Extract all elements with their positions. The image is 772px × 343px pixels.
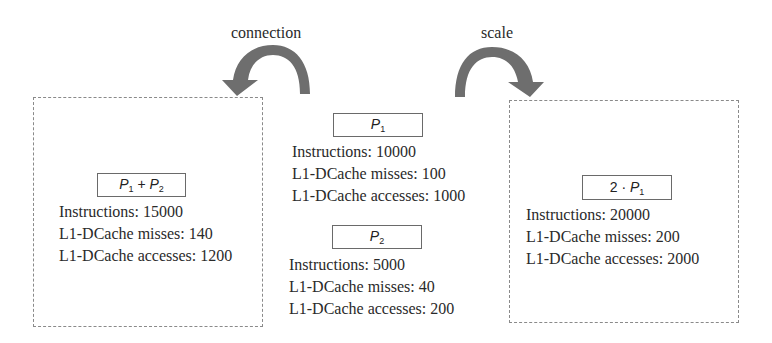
combined-program-title: P1 + P2 <box>97 173 186 197</box>
title-sub: 1 <box>380 124 385 134</box>
title-sub: 1 <box>639 187 644 197</box>
p1-program-title: P1 <box>333 113 423 137</box>
instructions-stat: Instructions: 15000 <box>59 201 232 223</box>
title-sub: 2 <box>159 184 164 194</box>
title-var: P <box>630 179 639 195</box>
title-var: P <box>371 116 380 132</box>
title-sub: 2 <box>379 236 384 246</box>
p1-program-stats: Instructions: 10000 L1-DCache misses: 10… <box>292 141 465 207</box>
accesses-stat: L1-DCache accesses: 200 <box>289 298 454 320</box>
accesses-stat: L1-DCache accesses: 2000 <box>526 248 699 270</box>
title-var: P <box>119 176 128 192</box>
instructions-stat: Instructions: 5000 <box>289 254 454 276</box>
misses-stat: L1-DCache misses: 100 <box>292 163 465 185</box>
instructions-stat: Instructions: 10000 <box>292 141 465 163</box>
accesses-stat: L1-DCache accesses: 1000 <box>292 185 465 207</box>
title-coef: 2 · <box>610 179 630 195</box>
title-op: + <box>134 176 150 192</box>
p2-program-stats: Instructions: 5000 L1-DCache misses: 40 … <box>289 254 454 320</box>
misses-stat: L1-DCache misses: 140 <box>59 223 232 245</box>
p2-program-title: P2 <box>332 225 422 249</box>
misses-stat: L1-DCache misses: 200 <box>526 226 699 248</box>
scaled-program-title: 2 · P1 <box>582 175 672 200</box>
misses-stat: L1-DCache misses: 40 <box>289 276 454 298</box>
title-var: P <box>370 228 379 244</box>
combined-program-stats: Instructions: 15000 L1-DCache misses: 14… <box>59 201 232 267</box>
instructions-stat: Instructions: 20000 <box>526 204 699 226</box>
scaled-program-stats: Instructions: 20000 L1-DCache misses: 20… <box>526 204 699 270</box>
accesses-stat: L1-DCache accesses: 1200 <box>59 245 232 267</box>
title-var: P <box>149 176 158 192</box>
